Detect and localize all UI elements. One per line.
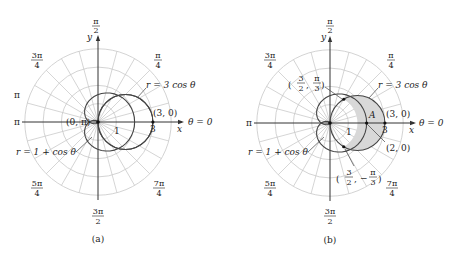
label-7pi-over-4-a: 7π [154,179,164,188]
svg-text:4: 4 [34,189,39,198]
label-pi-upper-a: π [14,90,20,100]
svg-text:(: ( [336,174,340,184]
point-3-0-b: (3, 0) [386,109,410,119]
label-7pi-over-4-b: 7π [387,179,397,188]
svg-text:,: , [354,174,357,184]
point-2-0-b: (2, 0) [386,143,410,153]
label-3pi-over-4-b: 3π [265,51,275,60]
point-pole-a: (0, π) [66,117,90,127]
label-5pi-over-4-b: 5π [265,179,275,188]
svg-text:3: 3 [370,178,375,187]
tick-1-b: 1 [346,127,352,137]
svg-text:−: − [360,173,368,183]
curve-label-circle-b: r = 3 cos θ [378,80,428,90]
svg-text:3: 3 [314,84,319,93]
svg-text:2: 2 [346,178,351,187]
tick-1-a: 1 [114,126,120,136]
svg-text:3: 3 [298,74,303,83]
curve-label-cardioid-a: r = 1 + cos θ [16,147,76,157]
svg-text:2: 2 [327,26,332,35]
svg-text:π: π [370,168,375,177]
point-3-0-a: (3, 0) [153,108,177,118]
svg-text:π: π [314,74,319,83]
svg-text:2: 2 [298,84,303,93]
svg-text:4: 4 [267,61,272,70]
label-3pi-over-2-b: 3π [325,207,335,216]
y-axis-label-a: y [86,32,93,42]
label-pi-over-4-a: π [155,51,160,60]
tick-3-a: 3 [150,124,156,134]
svg-text:): ) [321,80,325,90]
theta-zero-b: θ = 0 [419,118,444,128]
svg-text:4: 4 [389,189,394,198]
label-3pi-over-2-a: 3π [93,207,103,216]
svg-text:2: 2 [95,217,100,226]
x-axis-label-a: x [177,124,182,134]
caption-a: (a) [92,234,104,244]
svg-text:): ) [378,174,382,184]
x-axis-label-b: x [409,125,414,135]
label-3pi-over-4-a: 3π [32,51,42,60]
label-pi-b: π [246,118,252,128]
label-pi-a: π [14,117,20,127]
curve-label-circle-a: r = 3 cos θ [146,80,196,90]
region-label-A: A [368,110,376,120]
svg-text:3: 3 [346,168,351,177]
svg-text:4: 4 [156,189,161,198]
svg-text:,: , [306,80,309,90]
label-pi-over-2-a: π [93,17,98,26]
svg-text:4: 4 [155,61,160,70]
svg-text:4: 4 [267,189,272,198]
svg-text:(: ( [288,80,292,90]
curve-label-cardioid-b: r = 1 + cos θ [248,147,308,157]
svg-text:2: 2 [327,217,332,226]
label-pi-over-4-b: π [388,51,393,60]
figure: π 2 y 3π 4 π 4 π π (0, π) (3, 0) θ = 0 x… [0,0,454,257]
theta-zero-a: θ = 0 [188,117,213,127]
svg-text:4: 4 [388,61,393,70]
svg-text:2: 2 [93,26,98,35]
label-pi-over-2-b: π [327,17,332,26]
tick-3-b: 3 [382,125,388,135]
y-axis-label-b: y [320,32,327,42]
label-5pi-over-4-a: 5π [32,179,42,188]
svg-text:4: 4 [34,61,39,70]
caption-b: (b) [324,235,337,245]
